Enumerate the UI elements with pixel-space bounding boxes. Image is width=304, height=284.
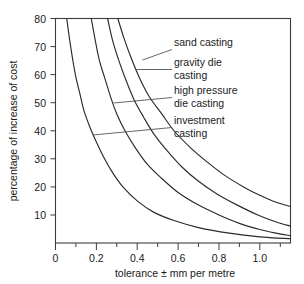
series-annotations: sand casting gravity die casting high pr…	[174, 36, 238, 139]
cost-vs-tolerance-chart: 80 70 60 50 40 30 20 10 0 0.2	[0, 0, 304, 284]
y-tick-label-40: 40	[34, 125, 46, 137]
leader-line-investment-casting	[93, 128, 172, 136]
x-tick-label-0: 0	[53, 252, 59, 264]
x-tick-label-0-4: 0.4	[130, 252, 145, 264]
x-axis-title: tolerance ± mm per metre	[115, 267, 235, 279]
x-tick-label-1-0: 1.0	[252, 252, 267, 264]
x-tick-label-0-6: 0.6	[171, 252, 186, 264]
y-tick-label-50: 50	[34, 97, 46, 109]
y-tick-label-60: 60	[34, 69, 46, 81]
label-gravity-die-casting-line2: casting	[174, 69, 207, 81]
leader-line-sand-casting	[143, 50, 173, 61]
label-high-pressure-die-casting-line2: die casting	[174, 97, 224, 109]
label-high-pressure-die-casting-line1: high pressure	[174, 84, 238, 96]
plot-frame	[56, 19, 291, 244]
label-investment-casting-line2: casting	[174, 127, 207, 139]
y-axis-ticks	[51, 19, 56, 216]
chart-figure: 80 70 60 50 40 30 20 10 0 0.2	[0, 0, 304, 284]
y-tick-label-10: 10	[34, 209, 46, 221]
y-tick-label-20: 20	[34, 181, 46, 193]
x-tick-label-0-8: 0.8	[212, 252, 227, 264]
label-gravity-die-casting-line1: gravity die	[174, 56, 222, 68]
y-tick-label-30: 30	[34, 153, 46, 165]
label-sand-casting: sand casting	[174, 36, 233, 48]
x-axis-tick-labels: 0 0.2 0.4 0.6 0.8 1.0	[53, 252, 268, 264]
label-investment-casting-line1: investment	[174, 114, 225, 126]
y-axis-tick-labels: 80 70 60 50 40 30 20 10	[34, 13, 46, 222]
y-axis-title: percentage of increase of cost	[7, 61, 19, 202]
y-tick-label-80: 80	[34, 13, 46, 25]
leader-line-high-pressure-die-casting	[114, 98, 173, 104]
y-tick-label-70: 70	[34, 41, 46, 53]
x-axis-ticks	[56, 243, 281, 250]
x-tick-label-0-2: 0.2	[89, 252, 104, 264]
